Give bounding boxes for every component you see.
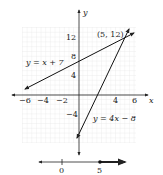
y-tick-label: 12: [66, 33, 76, 42]
y-tick-label: −4: [66, 110, 78, 119]
line2-label: y = 4x − 8: [92, 114, 136, 123]
number-line-label-0: 0: [59, 166, 64, 175]
x-tick-label: 6: [132, 96, 137, 105]
graph: x y −6 −4 −2 4 6 12 8 4 −4 (5, 12) y = x…: [0, 0, 163, 175]
x-tick-label: −4: [37, 96, 49, 105]
y-tick-label: 4: [71, 71, 76, 80]
intersection-label: (5, 12): [97, 30, 124, 39]
x-tick-label: 4: [113, 96, 118, 105]
x-tick-label: −2: [56, 96, 68, 105]
closed-point-5: [98, 160, 102, 164]
number-line-label-5: 5: [97, 166, 102, 175]
x-tick-label: −6: [19, 96, 31, 105]
line1-label: y = x + 7: [25, 58, 65, 67]
y-axis-label: y: [82, 8, 88, 17]
x-axis-label: x: [149, 96, 154, 105]
y-tick-label: 8: [71, 52, 76, 61]
